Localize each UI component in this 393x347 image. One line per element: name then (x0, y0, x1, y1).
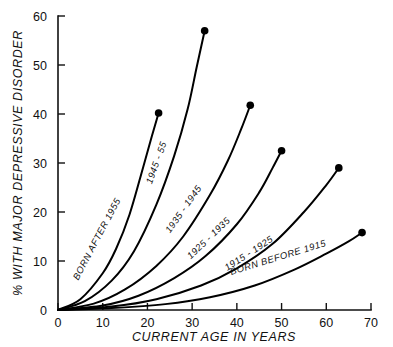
y-axis-ticks (58, 16, 65, 310)
x-tick-label: 40 (230, 316, 244, 330)
y-tick-label: 60 (33, 10, 47, 24)
y-axis-title: % WITH MAJOR DEPRESSIVE DISORDER (11, 30, 25, 296)
x-tick-label: 0 (55, 316, 62, 330)
x-tick-label: 10 (96, 316, 110, 330)
curve-label-2: 1935 - 1945 (163, 183, 204, 235)
data-curves-group (58, 31, 362, 310)
y-tick-label: 20 (33, 206, 47, 220)
y-tick-label: 30 (33, 157, 47, 171)
endpoint-marker-0 (155, 109, 163, 117)
endpoint-marker-4 (335, 164, 343, 172)
x-tick-label: 30 (185, 316, 199, 330)
curve-label-1: 1945 - 55 (143, 140, 169, 185)
axes-group (58, 16, 371, 310)
y-tick-label: 50 (33, 59, 47, 73)
endpoint-marker-3 (278, 147, 286, 155)
x-tick-label: 20 (140, 316, 154, 330)
y-tick-label: 10 (33, 255, 47, 269)
curve-label-0: BORN AFTER 1955 (70, 196, 123, 282)
x-tick-label: 70 (364, 316, 378, 330)
chart-figure: 0102030405060 010203040506070 BORN AFTER… (0, 0, 393, 347)
x-axis-title: CURRENT AGE IN YEARS (132, 330, 296, 344)
endpoint-marker-1 (201, 27, 209, 35)
y-tick-label: 40 (33, 108, 47, 122)
y-tick-label: 0 (40, 304, 47, 318)
x-tick-label: 50 (275, 316, 289, 330)
chart-canvas: 0102030405060 010203040506070 BORN AFTER… (0, 0, 393, 347)
y-axis-tick-labels: 0102030405060 (33, 10, 47, 318)
endpoint-marker-2 (246, 101, 254, 109)
x-axis-tick-labels: 010203040506070 (55, 316, 378, 330)
curve-labels-group: BORN AFTER 19551945 - 551935 - 19451925 … (70, 140, 327, 282)
endpoint-marker-5 (358, 229, 366, 237)
x-tick-label: 60 (319, 316, 333, 330)
